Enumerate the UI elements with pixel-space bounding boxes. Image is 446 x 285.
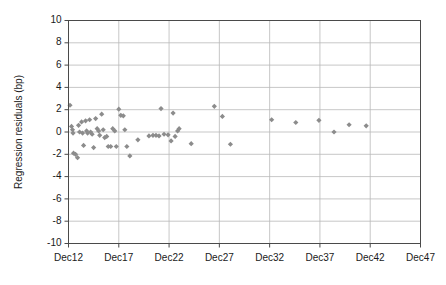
x-tick-label: Dec32 <box>255 252 284 263</box>
data-point <box>135 137 140 142</box>
data-point <box>70 131 75 136</box>
data-point <box>114 144 119 149</box>
data-point <box>76 123 81 128</box>
data-point <box>158 106 163 111</box>
grid-lines <box>69 21 421 244</box>
data-point <box>165 132 170 137</box>
data-point <box>116 107 121 112</box>
y-tick-label: 8 <box>56 36 62 47</box>
data-point <box>189 141 194 146</box>
data-point <box>91 145 96 150</box>
y-tick-label: 10 <box>50 14 62 25</box>
y-tick-label: 2 <box>56 103 62 114</box>
x-tick-label: Dec47 <box>406 252 435 263</box>
x-tick-label: Dec22 <box>155 252 184 263</box>
data-point <box>331 129 336 134</box>
data-point <box>316 118 321 123</box>
data-point <box>146 133 151 138</box>
data-point-layer <box>67 103 368 161</box>
y-tick-label: 0 <box>56 126 62 137</box>
y-tick-label: -8 <box>53 215 62 226</box>
data-point <box>173 134 178 139</box>
data-point <box>99 112 104 117</box>
y-tick-label: 6 <box>56 59 62 70</box>
y-tick-label: -6 <box>53 193 62 204</box>
data-point <box>228 142 233 147</box>
y-tick-label: -10 <box>47 237 62 248</box>
data-point <box>170 110 175 115</box>
y-tick-label: 4 <box>56 81 62 92</box>
data-point <box>93 116 98 121</box>
data-point <box>124 144 129 149</box>
data-point <box>83 118 88 123</box>
data-point <box>364 123 369 128</box>
y-tick-label: -2 <box>53 148 62 159</box>
data-point <box>97 133 102 138</box>
data-point <box>101 127 106 132</box>
data-point <box>346 122 351 127</box>
data-point <box>220 114 225 119</box>
data-point <box>122 127 127 132</box>
x-tick-label: Dec27 <box>205 252 234 263</box>
data-point <box>87 117 92 122</box>
x-tick-label: Dec42 <box>356 252 385 263</box>
data-point <box>79 119 84 124</box>
data-point <box>81 143 86 148</box>
axis-lines <box>65 21 421 248</box>
x-tick-label: Dec37 <box>305 252 334 263</box>
y-axis-title: Regression residuals (bp) <box>13 75 24 189</box>
data-point <box>161 132 166 137</box>
data-point <box>293 120 298 125</box>
x-tick-label: Dec17 <box>104 252 133 263</box>
data-point <box>212 104 217 109</box>
y-tick-label: -4 <box>53 170 62 181</box>
chart-figure: 1086420-2-4-6-8-10Dec12Dec17Dec22Dec27De… <box>0 0 446 285</box>
x-tick-label: Dec12 <box>54 252 83 263</box>
scatter-plot: 1086420-2-4-6-8-10Dec12Dec17Dec22Dec27De… <box>0 0 446 285</box>
axis-labels: 1086420-2-4-6-8-10Dec12Dec17Dec22Dec27De… <box>13 14 435 263</box>
